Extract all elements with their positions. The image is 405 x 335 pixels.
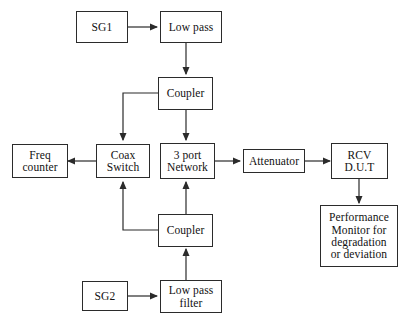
- wire-coupler1-to-coax: [123, 93, 158, 140]
- node-coupler-top-line-0: Coupler: [167, 87, 205, 99]
- node-freq-counter-line-0: Freq: [29, 149, 50, 161]
- node-attenuator[interactable]: Attenuator: [243, 149, 305, 173]
- node-sg1-line-0: SG1: [92, 21, 113, 33]
- node-low-pass-line-0: Low pass: [169, 21, 214, 33]
- node-coupler-bottom[interactable]: Coupler: [158, 214, 213, 247]
- node-coax-switch-line-0: Coax: [111, 149, 136, 161]
- node-3-port-network-line-1: Network: [167, 161, 208, 173]
- node-freq-counter[interactable]: Freq counter: [12, 144, 68, 178]
- node-low-pass-filter-line-1: filter: [180, 297, 203, 309]
- node-rcv-dut-line-0: RCV: [348, 149, 372, 161]
- node-performance-monitor-line-1: Monitor for: [331, 224, 386, 236]
- node-freq-counter-line-1: counter: [22, 161, 57, 173]
- node-low-pass-filter[interactable]: Low pass filter: [160, 280, 222, 313]
- node-low-pass[interactable]: Low pass: [160, 11, 222, 43]
- node-sg1[interactable]: SG1: [76, 11, 128, 43]
- node-performance-monitor[interactable]: Performance Monitor for degradation or d…: [320, 205, 398, 267]
- node-rcv-dut[interactable]: RCV D.U.T: [331, 143, 388, 179]
- wire-coupler2-to-coax: [123, 182, 158, 230]
- node-low-pass-filter-line-0: Low pass: [169, 284, 214, 296]
- node-coupler-bottom-line-0: Coupler: [167, 224, 205, 236]
- node-coax-switch[interactable]: Coax Switch: [96, 144, 150, 178]
- node-performance-monitor-line-3: or deviation: [331, 248, 387, 260]
- node-sg2[interactable]: SG2: [82, 281, 128, 311]
- block-diagram: SG1 Low pass Coupler Freq counter Coax S…: [0, 0, 405, 335]
- node-performance-monitor-line-2: degradation: [331, 236, 386, 248]
- node-performance-monitor-line-0: Performance: [329, 211, 389, 223]
- node-rcv-dut-line-1: D.U.T: [345, 161, 375, 173]
- node-coupler-top[interactable]: Coupler: [158, 77, 213, 110]
- node-coax-switch-line-1: Switch: [107, 161, 140, 173]
- node-sg2-line-0: SG2: [95, 290, 116, 302]
- node-3-port-network-line-0: 3 port: [174, 149, 202, 161]
- node-attenuator-line-0: Attenuator: [249, 155, 299, 167]
- node-3-port-network[interactable]: 3 port Network: [160, 143, 215, 179]
